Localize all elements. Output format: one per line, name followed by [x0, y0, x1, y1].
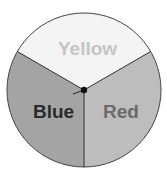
label-yellow: Yellow: [58, 38, 117, 60]
spinner-diagram: [0, 0, 167, 179]
label-red: Red: [103, 101, 139, 123]
spinner-center-pin: [81, 87, 87, 93]
label-blue: Blue: [33, 101, 74, 123]
